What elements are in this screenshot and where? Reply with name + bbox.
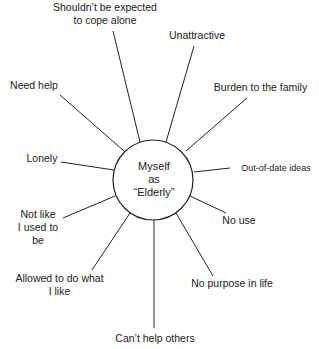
label-line: Unattractive [167, 29, 227, 42]
spoke-unattractive [166, 46, 194, 142]
label-shouldnt-cope-alone: Shouldn’t be expected to cope alone [50, 1, 160, 27]
label-burden: Burden to the family [208, 81, 313, 94]
center-line-2: as [120, 173, 188, 186]
label-lonely: Lonely [24, 152, 60, 165]
spoke-need-help [60, 95, 124, 151]
spoke-allowed-what-i-like [92, 213, 130, 270]
spoke-out-of-date [194, 168, 230, 172]
label-line: be [14, 234, 62, 247]
label-line: Not like [14, 208, 62, 221]
center-line-3: “Elderly” [120, 186, 188, 199]
label-not-like-used-to: Not like I used to be [14, 208, 62, 247]
center-line-1: Myself [120, 160, 188, 173]
label-line: No purpose in life [187, 277, 277, 290]
label-no-use: No use [219, 214, 259, 227]
label-need-help: Need help [6, 79, 62, 92]
label-line: Can’t help others [110, 332, 200, 345]
label-line: Need help [6, 79, 62, 92]
center-label: Myself as “Elderly” [120, 160, 188, 199]
spoke-not-like-used-to [63, 196, 115, 218]
label-line: Out-of-date ideas [236, 162, 316, 175]
spoke-no-use [190, 196, 226, 213]
label-line: Burden to the family [208, 81, 313, 94]
label-out-of-date: Out-of-date ideas [236, 162, 316, 175]
label-unattractive: Unattractive [167, 29, 227, 42]
label-allowed-what-i-like: Allowed to do what I like [12, 272, 107, 298]
spoke-shouldnt-cope-alone [113, 31, 140, 142]
label-cant-help-others: Can’t help others [110, 332, 200, 345]
label-line: I like [12, 285, 107, 298]
label-no-purpose: No purpose in life [187, 277, 277, 290]
spoke-burden [186, 98, 247, 151]
label-line: I used to [14, 221, 62, 234]
spoke-no-purpose [176, 213, 213, 276]
label-line: Shouldn’t be expected [50, 1, 160, 14]
label-line: to cope alone [50, 14, 160, 27]
label-line: Allowed to do what [12, 272, 107, 285]
label-line: Lonely [24, 152, 60, 165]
spoke-lonely [61, 162, 114, 170]
label-line: No use [219, 214, 259, 227]
